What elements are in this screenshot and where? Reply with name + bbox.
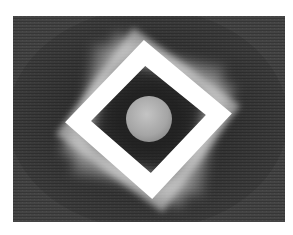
sphere xyxy=(126,96,172,142)
background-field xyxy=(8,9,288,229)
abstract-artwork xyxy=(0,0,293,235)
